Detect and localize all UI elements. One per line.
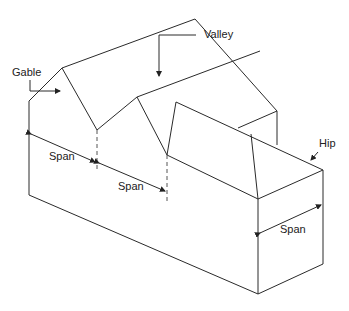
hip-roof (167, 102, 323, 199)
hip-pointer (311, 152, 318, 160)
valley-label: Valley (204, 28, 234, 40)
gable-label: Gable (12, 66, 41, 78)
span-label-left: Span (49, 150, 75, 162)
span-label-middle: Span (118, 180, 144, 192)
gable-roof-1 (29, 19, 277, 130)
roof-diagram: Gable Valley Hip Span Span Span (0, 0, 349, 311)
valley-pointer (159, 35, 196, 76)
span-label-right: Span (280, 223, 306, 235)
hip-label: Hip (319, 137, 336, 149)
building-outline (29, 101, 323, 294)
